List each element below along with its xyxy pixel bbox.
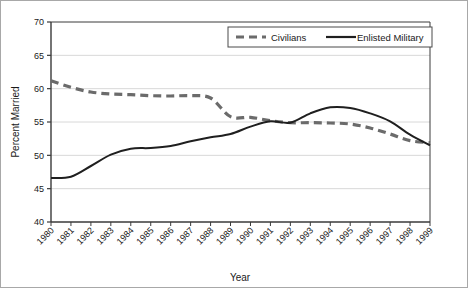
chart-figure: 40455055606570 1980198119821983198419851…: [0, 0, 469, 289]
x-tick-label-1993: 1993: [294, 225, 315, 246]
x-tick-label-1995: 1995: [334, 225, 355, 246]
y-tick-label-55: 55: [34, 117, 44, 127]
y-tick-label-40: 40: [34, 217, 44, 227]
x-tick-label-1992: 1992: [274, 225, 295, 246]
y-axis-ticks: 40455055606570: [34, 17, 51, 227]
y-tick-label-65: 65: [34, 51, 44, 61]
y-tick-label-50: 50: [34, 151, 44, 161]
x-tick-label-1982: 1982: [75, 225, 96, 246]
y-tick-label-70: 70: [34, 17, 44, 27]
x-tick-label-1980: 1980: [35, 225, 56, 246]
line-chart-canvas: 40455055606570 1980198119821983198419851…: [0, 0, 469, 289]
x-tick-label-1991: 1991: [254, 225, 275, 246]
x-tick-label-1996: 1996: [354, 225, 375, 246]
x-tick-label-1985: 1985: [134, 225, 155, 246]
x-tick-label-1988: 1988: [194, 225, 215, 246]
x-tick-label-1987: 1987: [174, 225, 195, 246]
x-tick-label-1983: 1983: [95, 225, 116, 246]
x-tick-label-1998: 1998: [394, 225, 415, 246]
x-tick-label-1990: 1990: [234, 225, 255, 246]
x-axis-title: Year: [230, 272, 251, 283]
y-tick-label-45: 45: [34, 184, 44, 194]
x-tick-label-1989: 1989: [214, 225, 235, 246]
legend-label-civilians: Civilians: [271, 32, 307, 43]
x-tick-label-1981: 1981: [55, 225, 76, 246]
legend-label-enlisted-military: Enlisted Military: [357, 32, 424, 43]
x-tick-label-1986: 1986: [154, 225, 175, 246]
chart-legend[interactable]: Civilians Enlisted Military: [228, 27, 432, 47]
x-axis-ticks: 1980198119821983198419851986198719881989…: [35, 222, 435, 247]
y-axis-title: Percent Married: [10, 86, 21, 157]
x-tick-label-1997: 1997: [374, 225, 395, 246]
x-tick-label-1999: 1999: [414, 225, 435, 246]
x-tick-label-1994: 1994: [314, 225, 335, 246]
x-tick-label-1984: 1984: [114, 225, 135, 246]
y-tick-label-60: 60: [34, 84, 44, 94]
